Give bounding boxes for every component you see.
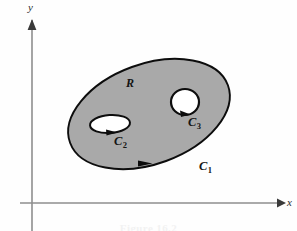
curve-label-c3: C3 [188,115,201,130]
curve-label-c3-subscript: 3 [197,121,201,131]
figure-container: y x R C1 C2 C3 Figure 16.2 [0,0,297,231]
curve-label-c2-letter: C [114,134,122,148]
figure-graphic [0,0,297,231]
curve-label-c1: C1 [199,159,212,174]
region-label-r: R [126,76,134,91]
figure-caption: Figure 16.2 [0,222,297,231]
curve-label-c2-subscript: 2 [123,140,127,150]
x-axis-label: x [287,196,292,208]
curve-label-c2: C2 [114,134,127,149]
curve-label-c1-subscript: 1 [208,165,212,175]
region-r-shape [0,0,297,231]
curve-label-c3-letter: C [188,115,196,129]
y-axis-label: y [28,1,33,13]
curve-label-c1-letter: C [199,159,207,173]
